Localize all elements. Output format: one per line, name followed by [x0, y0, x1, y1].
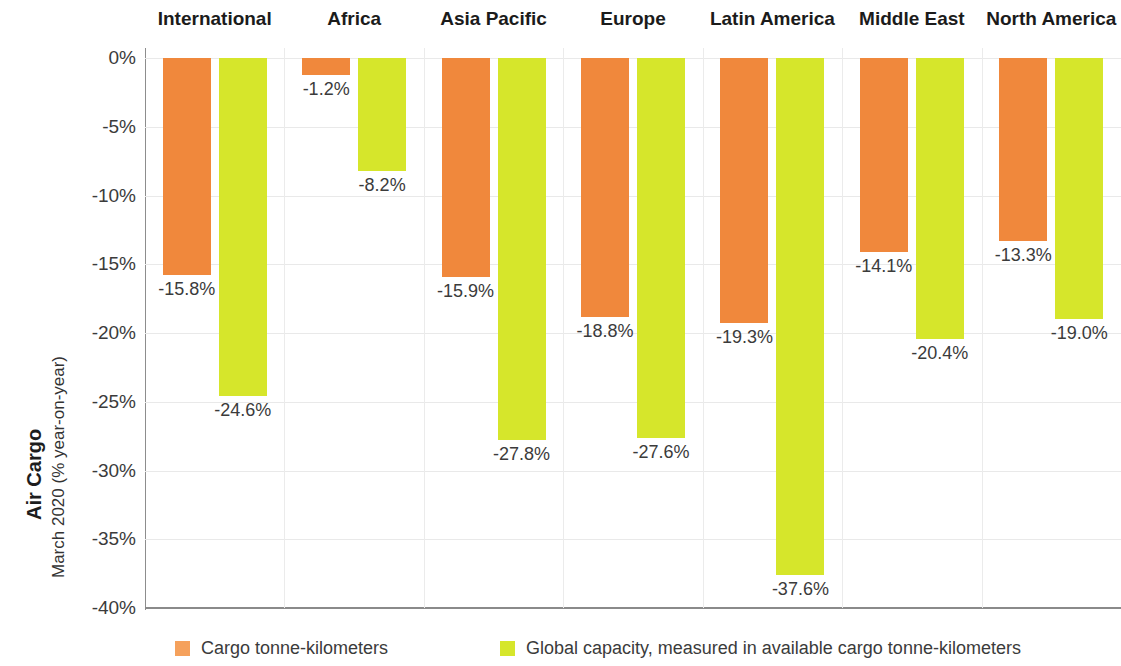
y-axis-tick-label: -20% [58, 322, 136, 344]
bar-group: International-15.8%-24.6% [145, 58, 284, 608]
y-axis-tick-label: -30% [58, 460, 136, 482]
bar-value-label: -20.4% [890, 343, 990, 364]
chart-title: Air Cargo [24, 429, 45, 520]
legend-swatch-icon [500, 641, 515, 656]
y-axis-tick-label: -25% [58, 391, 136, 413]
plot-area: International-15.8%-24.6%Africa-1.2%-8.2… [145, 58, 1121, 608]
category-label: Europe [563, 8, 702, 30]
bar-global-capacity [776, 58, 824, 575]
bar-cargo-tonne-kilometers [860, 58, 908, 252]
bar-cargo-tonne-kilometers [581, 58, 629, 317]
bar-group: Middle East-14.1%-20.4% [842, 58, 981, 608]
bar-cargo-tonne-kilometers [302, 58, 350, 75]
y-axis-tick-label: -5% [58, 116, 136, 138]
category-label: North America [982, 8, 1121, 30]
bar-group: Africa-1.2%-8.2% [284, 58, 423, 608]
bar-group: Europe-18.8%-27.6% [563, 58, 702, 608]
bar-value-label: -24.6% [193, 400, 293, 421]
bar-global-capacity [916, 58, 964, 339]
legend-label: Cargo tonne-kilometers [201, 638, 388, 659]
y-axis-tick-label: -35% [58, 528, 136, 550]
y-axis-tick-label: -10% [58, 185, 136, 207]
category-label: Latin America [703, 8, 842, 30]
bar-value-label: -19.0% [1029, 323, 1121, 344]
bar-global-capacity [637, 58, 685, 438]
bar-value-label: -37.6% [750, 579, 850, 600]
bar-value-label: -27.6% [611, 442, 711, 463]
bar-cargo-tonne-kilometers [163, 58, 211, 275]
bar-chart: Air Cargo March 2020 (% year-on-year) 0%… [0, 0, 1121, 666]
legend-label: Global capacity, measured in available c… [526, 638, 1021, 659]
category-label: Middle East [842, 8, 981, 30]
y-axis-tick-label: -15% [58, 253, 136, 275]
bar-cargo-tonne-kilometers [720, 58, 768, 323]
y-axis-tick-label: 0% [58, 47, 136, 69]
bar-value-label: -27.8% [472, 444, 572, 465]
legend-swatch-icon [175, 641, 190, 656]
bar-global-capacity [219, 58, 267, 396]
category-label: International [145, 8, 284, 30]
legend-item[interactable]: Cargo tonne-kilometers [175, 638, 388, 659]
bar-cargo-tonne-kilometers [999, 58, 1047, 241]
bar-group: North America-13.3%-19.0% [982, 58, 1121, 608]
bar-global-capacity [1055, 58, 1103, 319]
bar-value-label: -8.2% [332, 175, 432, 196]
bar-group: Asia Pacific-15.9%-27.8% [424, 58, 563, 608]
bar-global-capacity [358, 58, 406, 171]
legend-item[interactable]: Global capacity, measured in available c… [500, 638, 1021, 659]
y-axis-tick-label: -40% [58, 597, 136, 619]
bar-cargo-tonne-kilometers [442, 58, 490, 277]
bar-group: Latin America-19.3%-37.6% [703, 58, 842, 608]
chart-legend: Cargo tonne-kilometersGlobal capacity, m… [0, 634, 1121, 666]
y-axis-title-block: Air Cargo March 2020 (% year-on-year) [0, 0, 58, 612]
category-label: Asia Pacific [424, 8, 563, 30]
category-label: Africa [284, 8, 423, 30]
bar-global-capacity [498, 58, 546, 440]
y-axis-tick-labels: 0%-5%-10%-15%-20%-25%-30%-35%-40% [58, 0, 136, 666]
